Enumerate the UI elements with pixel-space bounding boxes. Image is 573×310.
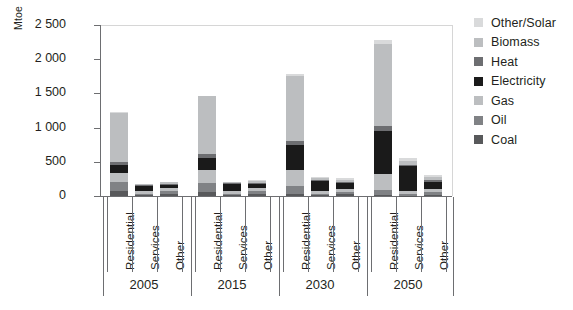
bar-other-2030	[336, 178, 354, 196]
x-category-label: Services	[325, 225, 337, 270]
bar-services-2015	[223, 182, 241, 196]
bar-residential-2005	[110, 112, 128, 196]
x-category-label: Other	[174, 241, 186, 270]
legend-label: Biomass	[491, 35, 540, 49]
legend-swatch-icon	[474, 18, 483, 27]
legend-item[interactable]: Electricity	[474, 72, 556, 92]
legend-swatch-icon	[474, 77, 483, 86]
y-tick-label: 2 500	[14, 18, 66, 31]
bar-segment-electricity	[286, 145, 304, 170]
x-category-divider	[157, 197, 158, 272]
legend-swatch-icon	[474, 57, 483, 66]
bar-segment-electricity	[110, 165, 128, 173]
bar-segment-electricity	[374, 131, 392, 174]
x-category-divider	[446, 197, 447, 272]
bar-segment-gas	[286, 170, 304, 186]
bar-segment-oil	[198, 183, 216, 192]
bar-segment-oil	[110, 182, 128, 191]
x-category-divider	[220, 197, 221, 272]
x-category-divider	[195, 197, 196, 272]
bar-services-2050	[399, 158, 417, 196]
bar-segment-coal	[424, 195, 442, 196]
bar-services-2030	[311, 177, 329, 196]
legend-item[interactable]: Coal	[474, 130, 556, 150]
x-category-label: Residential	[124, 212, 136, 270]
legend-label: Other/Solar	[491, 16, 556, 30]
legend-swatch-icon	[474, 116, 483, 125]
bar-segment-gas	[198, 170, 216, 183]
bar-segment-oil	[286, 186, 304, 194]
legend-item[interactable]: Oil	[474, 111, 556, 131]
x-category-divider	[371, 197, 372, 272]
bar-segment-biomass	[110, 113, 128, 162]
bar-segment-coal	[160, 194, 178, 196]
legend-item[interactable]: Gas	[474, 91, 556, 111]
x-category-divider	[333, 197, 334, 272]
x-group-label: 2005	[100, 277, 188, 292]
bar-other-2015	[248, 180, 266, 196]
bar-segment-electricity	[399, 166, 417, 191]
plot-right-border	[452, 25, 453, 196]
bar-segment-biomass	[374, 44, 392, 126]
x-group-label: 2030	[276, 277, 364, 292]
y-axis-ticks: 05001 0001 5002 0002 500	[0, 0, 66, 310]
x-category-label: Other	[262, 241, 274, 270]
x-category-label: Other	[438, 241, 450, 270]
legend-item[interactable]: Heat	[474, 52, 556, 72]
y-tick-label: 0	[14, 189, 66, 202]
legend-swatch-icon	[474, 96, 483, 105]
legend-label: Electricity	[491, 74, 546, 88]
bar-other-2050	[424, 175, 442, 196]
x-category-label: Residential	[212, 212, 224, 270]
bar-segment-gas	[374, 174, 392, 190]
x-category-label: Residential	[300, 212, 312, 270]
bar-segment-coal	[248, 194, 266, 196]
bar-segment-coal	[286, 194, 304, 196]
bar-segment-coal	[311, 195, 329, 196]
x-group-divider	[453, 197, 454, 296]
bar-segment-coal	[336, 194, 354, 196]
legend-item[interactable]: Biomass	[474, 33, 556, 53]
x-category-label: Services	[149, 225, 161, 270]
x-category-divider	[421, 197, 422, 272]
x-category-divider	[396, 197, 397, 272]
bar-segment-coal	[110, 191, 128, 196]
x-category-divider	[107, 197, 108, 272]
y-tick-label: 1 500	[14, 86, 66, 99]
x-category-label: Other	[350, 241, 362, 270]
bar-segment-coal	[135, 195, 153, 196]
stacked-bar-chart: Mtoe 05001 0001 5002 0002 500 Residentia…	[0, 0, 573, 310]
x-category-label: Services	[237, 225, 249, 270]
x-category-label: Services	[413, 225, 425, 270]
bar-segment-biomass	[286, 76, 304, 141]
plot-area	[100, 25, 452, 196]
x-category-divider	[132, 197, 133, 272]
x-category-divider	[358, 197, 359, 272]
chart-legend: Other/SolarBiomassHeatElectricityGasOilC…	[474, 13, 556, 150]
x-category-label: Residential	[388, 212, 400, 270]
legend-swatch-icon	[474, 38, 483, 47]
x-category-divider	[308, 197, 309, 272]
bar-segment-biomass	[198, 96, 216, 153]
legend-item[interactable]: Other/Solar	[474, 13, 556, 33]
bar-segment-coal	[374, 195, 392, 196]
bar-residential-2015	[198, 96, 216, 196]
x-group-divider	[103, 197, 104, 296]
x-category-divider	[270, 197, 271, 272]
bar-segment-coal	[198, 192, 216, 196]
x-category-divider	[182, 197, 183, 272]
y-tick-label: 2 000	[14, 52, 66, 65]
x-group-divider	[367, 197, 368, 296]
y-tick-label: 1 000	[14, 121, 66, 134]
x-group-divider	[191, 197, 192, 296]
legend-label: Oil	[491, 113, 507, 127]
legend-label: Gas	[491, 94, 514, 108]
x-axis-line	[100, 196, 452, 197]
bar-segment-electricity	[424, 182, 442, 190]
x-group-divider	[279, 197, 280, 296]
bar-segment-electricity	[198, 158, 216, 170]
legend-label: Heat	[491, 55, 518, 69]
x-category-divider	[245, 197, 246, 272]
bar-segment-gas	[110, 173, 128, 182]
legend-swatch-icon	[474, 135, 483, 144]
